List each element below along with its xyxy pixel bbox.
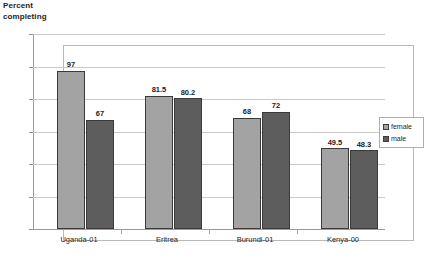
bar-label-kenya-male: 48.3	[350, 141, 378, 149]
bar-group-kenya: 49.5 48.3	[319, 34, 381, 229]
bar-burundi-male[interactable]	[262, 112, 290, 230]
chart-title-line-1: Percent	[3, 1, 33, 10]
bar-eritrea-male[interactable]	[174, 98, 202, 229]
bar-label-uganda-female: 97	[57, 61, 85, 69]
bar-label-eritrea-female: 81.5	[145, 86, 173, 94]
bar-kenya-female[interactable]	[321, 148, 349, 229]
y-tick-mark-40	[29, 164, 33, 165]
x-axis-label-burundi: Burundi-01	[217, 235, 293, 244]
bar-uganda-female[interactable]	[57, 71, 85, 229]
x-axis-label-uganda: Uganda-01	[41, 235, 117, 244]
legend-swatch-male-icon	[383, 136, 389, 142]
bar-burundi-female[interactable]	[233, 118, 261, 229]
legend-item-female[interactable]: female	[383, 121, 421, 132]
y-tick-mark-80	[29, 99, 33, 100]
y-tick-mark-120	[29, 34, 33, 35]
x-tick-mark-3	[297, 230, 298, 234]
legend-item-male[interactable]: male	[383, 133, 421, 144]
chart-page: Percentcompleting 120 100 80 60 40 20 0 …	[0, 0, 430, 263]
bar-label-kenya-female: 49.5	[321, 139, 349, 147]
bar-uganda-male[interactable]	[86, 120, 114, 229]
y-tick-mark-20	[29, 197, 33, 198]
page-title: Percentcompleting	[3, 1, 123, 22]
legend-label-male: male	[391, 135, 406, 143]
legend-label-female: female	[391, 123, 412, 131]
plot-area: 97 67 81.5 80.2 68 72 49.5 48.3	[33, 34, 385, 230]
x-tick-mark-2	[209, 230, 210, 234]
bar-label-burundi-female: 68	[233, 108, 261, 116]
bar-group-uganda: 97 67	[55, 34, 117, 229]
y-tick-mark-0	[29, 229, 33, 230]
x-axis-label-eritrea: Eritrea	[129, 235, 205, 244]
x-tick-mark-1	[121, 230, 122, 234]
chart-title-line-2: completing	[3, 12, 47, 21]
bar-kenya-male[interactable]	[350, 150, 378, 229]
y-tick-mark-100	[29, 67, 33, 68]
bar-group-eritrea: 81.5 80.2	[143, 34, 205, 229]
bar-label-burundi-male: 72	[262, 102, 290, 110]
bar-label-uganda-male: 67	[86, 110, 114, 118]
bar-label-eritrea-male: 80.2	[174, 89, 202, 97]
bar-group-burundi: 68 72	[231, 34, 293, 229]
legend-swatch-female-icon	[383, 124, 389, 130]
chart-legend: female male	[379, 117, 424, 148]
x-axis-label-kenya: Kenya-00	[305, 235, 381, 244]
bar-eritrea-female[interactable]	[145, 96, 173, 229]
y-tick-mark-60	[29, 132, 33, 133]
